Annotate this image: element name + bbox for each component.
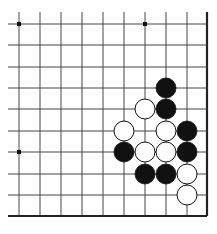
white-stone [156, 142, 176, 162]
star-point [17, 150, 21, 154]
white-stone [135, 99, 155, 119]
black-stone [156, 99, 176, 119]
white-stone [114, 121, 134, 141]
black-stone [114, 142, 134, 162]
black-stone [177, 142, 197, 162]
black-stone [135, 164, 155, 184]
white-stone [156, 121, 176, 141]
black-stone [177, 121, 197, 141]
black-stone [156, 78, 176, 98]
black-stone [156, 164, 176, 184]
star-point [143, 22, 147, 26]
white-stone [177, 164, 197, 184]
white-stone [135, 142, 155, 162]
white-stone [177, 185, 197, 205]
go-board [0, 0, 217, 234]
star-point [17, 22, 21, 26]
stones [114, 78, 197, 205]
board-grid [8, 12, 207, 216]
